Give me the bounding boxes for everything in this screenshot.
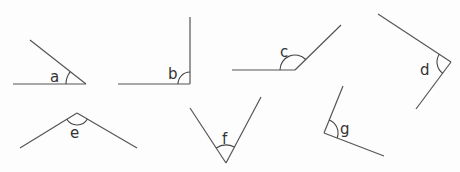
- angle-g: g: [324, 86, 384, 156]
- angle-f-label: f: [222, 130, 228, 148]
- angle-g-label: g: [340, 120, 350, 138]
- angle-e: e: [20, 113, 137, 148]
- angles-figure: a b c d e: [0, 0, 460, 172]
- angle-c-label: c: [280, 43, 288, 61]
- angle-b-label: b: [168, 65, 178, 83]
- angle-b: b: [118, 17, 190, 84]
- angle-e-label: e: [70, 124, 79, 142]
- angle-a-label: a: [50, 68, 59, 86]
- angle-d: d: [378, 14, 451, 109]
- angle-a: a: [13, 40, 86, 86]
- worksheet: a b c d e: [0, 0, 460, 172]
- angle-c: c: [232, 25, 341, 70]
- angle-d-label: d: [420, 61, 430, 79]
- angle-f: f: [190, 97, 261, 163]
